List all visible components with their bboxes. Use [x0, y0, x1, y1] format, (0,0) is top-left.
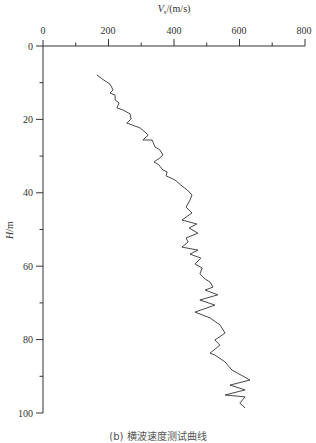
- y-axis-title: H/m: [4, 221, 15, 240]
- x-tick-label: 400: [167, 25, 182, 36]
- x-tick-label: 800: [297, 25, 312, 36]
- y-tick-label: 60: [23, 261, 33, 272]
- x-axis-title: Vs/(m/s): [158, 3, 191, 16]
- y-tick-label: 0: [28, 41, 33, 52]
- y-tick-label: 80: [23, 334, 33, 345]
- x-tick-label: 600: [232, 25, 247, 36]
- y-tick-label: 40: [23, 187, 33, 198]
- y-tick-label: 20: [23, 114, 33, 125]
- figure-caption: (b) 横波速度测试曲线: [0, 428, 316, 443]
- y-minor-ticks: [40, 83, 44, 377]
- x-tick-label: 200: [101, 25, 116, 36]
- vs-curve: [97, 75, 250, 408]
- x-tick-label: 0: [41, 25, 46, 36]
- y-tick-label: 100: [18, 408, 33, 419]
